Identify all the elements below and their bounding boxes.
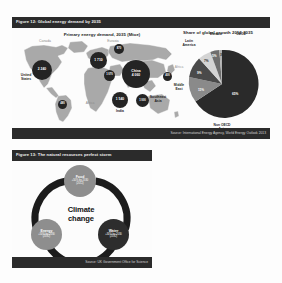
pie-value-oecd: 3% bbox=[220, 53, 225, 57]
bubble-china-value: 4 060 bbox=[131, 74, 140, 78]
pie-label-oecd: OECD bbox=[230, 33, 252, 37]
figure-13-body: Climate change Food +50% by 2030 (2012) … bbox=[12, 161, 152, 257]
pie-value-africa: 9% bbox=[197, 71, 202, 75]
pie-value-latin-america: 7% bbox=[204, 59, 209, 63]
map-label-india: India bbox=[110, 110, 130, 114]
figure-12-source: Source: International Energy Agency, Wor… bbox=[170, 131, 266, 135]
node-food-sub: +50% by 2030 (2012) bbox=[72, 180, 89, 186]
bubble-india: 1 540 bbox=[112, 92, 128, 108]
climate-change-center: Climate change bbox=[58, 203, 104, 227]
figure-12-header-bar: Figure 12: Global energy demand by 2035 bbox=[12, 17, 270, 28]
pie-label-eurasia: Eurasia bbox=[204, 33, 228, 37]
figure-12-title: Figure 12: Global energy demand by 2035 bbox=[16, 19, 101, 24]
map-label-southeast-asia: Southeast Asia bbox=[146, 96, 170, 103]
node-water-sub: +30% by 2030 (2012) bbox=[105, 234, 122, 240]
bubble-brazil: 480 bbox=[58, 100, 67, 109]
center-line-2: change bbox=[68, 215, 94, 224]
bubble-europe: 1 710 bbox=[90, 52, 107, 69]
figure-13-title: Figure 13: The natural resources perfect… bbox=[16, 152, 111, 157]
bubble-china: China 4 060 bbox=[122, 60, 150, 88]
share-of-global-growth-pie: 65% 11% 9% 7% 5% 3% Non OECD Asia Middle… bbox=[182, 44, 262, 124]
document-page: Figure 12: Global energy demand by 2035 … bbox=[0, 0, 282, 283]
perfect-storm-diagram: Climate change Food +50% by 2030 (2012) … bbox=[18, 163, 144, 257]
map-panel-title: Primary energy demand, 2035 (Mtoe) bbox=[32, 32, 172, 37]
bubble-russia: 870 bbox=[114, 44, 124, 54]
map-label-united-states: United States bbox=[14, 74, 38, 81]
node-energy: Energy +50% by 2030 (2012) bbox=[31, 219, 62, 250]
bubble-japan: 400 bbox=[163, 72, 172, 81]
pie-label-middle-east: Middle East bbox=[166, 84, 192, 91]
node-food: Food +50% by 2030 (2012) bbox=[64, 165, 96, 197]
figure-13: Figure 13: The natural resources perfect… bbox=[12, 150, 152, 268]
pie-value-middle-east: 11% bbox=[198, 88, 204, 92]
figure-12-body: Primary energy demand, 2035 (Mtoe) bbox=[12, 28, 270, 128]
map-label-eurasia: Eurasia bbox=[102, 40, 124, 44]
figure-13-source: Source: UK Government Office for Science bbox=[85, 260, 148, 264]
pie-label-latin-america: Latin America bbox=[176, 40, 202, 47]
node-energy-sub: +50% by 2030 (2012) bbox=[38, 234, 55, 240]
pie-label-africa: Africa bbox=[168, 66, 190, 70]
pie-value-eurasia: 5% bbox=[212, 54, 217, 58]
figure-13-footer-bar: Source: UK Government Office for Science bbox=[12, 257, 152, 268]
map-label-canada: Canada bbox=[34, 40, 56, 44]
figure-13-header-bar: Figure 13: The natural resources perfect… bbox=[12, 150, 152, 161]
figure-12-footer-bar: Source: International Energy Agency, Wor… bbox=[12, 128, 270, 139]
figure-12: Figure 12: Global energy demand by 2035 … bbox=[12, 17, 270, 139]
node-water: Water +30% by 2030 (2012) bbox=[98, 219, 129, 250]
pie-value-non-oecd-asia: 65% bbox=[232, 92, 238, 96]
map-label-africa: Africa bbox=[80, 102, 100, 106]
world-map: 2 240 1 710 China 4 060 1 540 1 000 bbox=[18, 38, 182, 124]
bubble-middle-east: 1 070 bbox=[104, 70, 115, 81]
